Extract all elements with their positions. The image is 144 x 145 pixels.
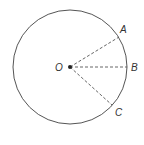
center-point [68, 65, 72, 69]
radius-oc [70, 67, 112, 105]
label-a: A [119, 24, 127, 35]
circle-diagram: O A B C [0, 0, 144, 145]
label-o: O [55, 62, 63, 73]
label-b: B [131, 62, 138, 73]
radius-oa [70, 37, 119, 67]
label-c: C [115, 107, 123, 118]
